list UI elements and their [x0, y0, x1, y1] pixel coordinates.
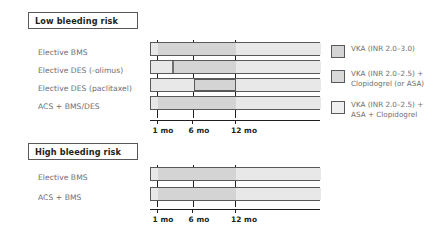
segment-triple-therapy	[151, 61, 172, 73]
axis-label-text: 6 mo	[189, 215, 210, 224]
segment-vka-clopidogrel	[174, 61, 236, 73]
legend-label-vka-clopidogrel: VKA (INR 2.0–2.5) + Clopidogrel (or ASA)	[351, 69, 424, 88]
bar-row-elective-des-olimus	[150, 60, 320, 74]
legend-swatch-vka-clopidogrel	[331, 70, 345, 83]
segment-triple-therapy	[151, 97, 158, 109]
row-label-elective-bms-low: Elective BMS	[38, 48, 88, 57]
section-header-label: High bleeding risk	[35, 147, 121, 157]
segment-triple-therapy	[151, 188, 158, 200]
row-label-elective-des-paclitaxel: Elective DES (paclitaxel)	[38, 84, 132, 93]
row-label-text: Elective DES (paclitaxel)	[38, 84, 132, 93]
section-header-label: Low bleeding risk	[35, 16, 118, 26]
legend-swatch-triple-therapy	[331, 101, 345, 114]
legend-label-vka-alone: VKA (INR 2.0–3.0)	[351, 44, 415, 54]
row-label-acs-bms: ACS + BMS	[38, 193, 81, 202]
legend-swatch-vka-alone	[331, 45, 345, 58]
plot-panel-high-bleeding-risk	[150, 165, 320, 207]
plot-panel-low-bleeding-risk	[150, 40, 320, 118]
row-label-text: ACS + BMS/DES	[38, 102, 100, 111]
bar-row-elective-bms-high	[150, 167, 320, 181]
segment-vka-clopidogrel	[158, 168, 236, 180]
segment-vka-alone	[236, 79, 321, 91]
axis-label-6mo-low: 6 mo	[189, 126, 210, 135]
row-label-text: Elective BMS	[38, 48, 88, 57]
row-label-text: ACS + BMS	[38, 193, 81, 202]
legend-item-triple-therapy: VKA (INR 2.0–2.5) + ASA + Clopidogrel	[331, 100, 423, 119]
axis-tick-12mo-low	[235, 120, 236, 124]
segment-vka-clopidogrel	[194, 79, 237, 91]
segment-vka-alone	[236, 97, 321, 109]
segment-triple-therapy	[151, 168, 158, 180]
bar-row-acs-bms-des	[150, 96, 320, 110]
row-label-elective-des-olimus: Elective DES (-olimus)	[38, 66, 123, 75]
segment-vka-alone	[236, 61, 321, 73]
axis-tick-12mo-high	[235, 209, 236, 213]
segment-vka-alone	[236, 168, 321, 180]
axis-label-text: 6 mo	[189, 126, 210, 135]
segment-vka-alone	[236, 188, 321, 200]
segment-vka-clopidogrel	[158, 188, 236, 200]
axis-label-text: 12 mo	[231, 215, 257, 224]
bar-row-elective-des-paclitaxel	[150, 78, 320, 92]
axis-tick-1mo-low	[157, 120, 158, 124]
bar-row-elective-bms-low	[150, 42, 320, 56]
axis-tick-6mo-high	[192, 209, 193, 213]
legend: VKA (INR 2.0–3.0) VKA (INR 2.0–2.5) + Cl…	[331, 44, 436, 119]
axis-label-6mo-high: 6 mo	[189, 215, 210, 224]
section-header-low-bleeding-risk: Low bleeding risk	[28, 12, 138, 29]
segment-vka-clopidogrel	[158, 97, 236, 109]
row-label-acs-bms-des: ACS + BMS/DES	[38, 102, 100, 111]
figure-root: Low bleeding risk Elective BMS Elective …	[0, 0, 438, 244]
axis-tick-1mo-high	[157, 209, 158, 213]
axis-label-text: 1 mo	[153, 126, 174, 135]
axis-tick-6mo-low	[192, 120, 193, 124]
legend-item-vka-clopidogrel: VKA (INR 2.0–2.5) + Clopidogrel (or ASA)	[331, 69, 424, 88]
row-label-elective-bms-high: Elective BMS	[38, 173, 88, 182]
section-header-high-bleeding-risk: High bleeding risk	[28, 143, 138, 160]
legend-label-triple-therapy: VKA (INR 2.0–2.5) + ASA + Clopidogrel	[351, 100, 423, 119]
axis-label-1mo-high: 1 mo	[153, 215, 174, 224]
segment-triple-therapy	[151, 43, 158, 55]
segment-vka-clopidogrel	[158, 43, 236, 55]
axis-label-12mo-low: 12 mo	[231, 126, 257, 135]
row-label-text: Elective BMS	[38, 173, 88, 182]
row-label-text: Elective DES (-olimus)	[38, 66, 123, 75]
segment-vka-alone	[236, 43, 321, 55]
axis-label-12mo-high: 12 mo	[231, 215, 257, 224]
axis-label-text: 12 mo	[231, 126, 257, 135]
axis-label-1mo-low: 1 mo	[153, 126, 174, 135]
bar-row-acs-bms-high	[150, 187, 320, 201]
axis-label-text: 1 mo	[153, 215, 174, 224]
legend-item-vka-alone: VKA (INR 2.0–3.0)	[331, 44, 415, 58]
segment-triple-therapy	[151, 79, 194, 91]
